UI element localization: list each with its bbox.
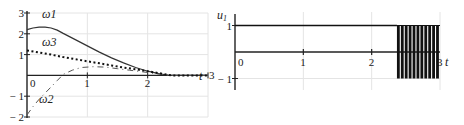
y-tick-label: 3 xyxy=(19,7,25,19)
y-axis-label: u1 xyxy=(217,8,227,23)
figure: 0123t321− 1− 2ω1ω3ω2 0123t1− 1u1 xyxy=(0,0,464,125)
series-u1-pulse xyxy=(417,26,420,79)
series-u1-pulse xyxy=(432,26,435,79)
series-u1-pulse xyxy=(413,26,416,79)
x-tick-label: 3 xyxy=(209,69,215,81)
x-tick-label: 1 xyxy=(84,77,90,89)
y-tick-label: 1 xyxy=(19,49,25,61)
x-tick-label: 1 xyxy=(300,56,306,68)
y-tick-label: 1 xyxy=(227,20,233,32)
series-u1-pulse xyxy=(401,26,404,79)
series-label-omega2: ω2 xyxy=(39,92,53,106)
y-tick-label: 2 xyxy=(19,28,25,40)
series-label-omega3: ω3 xyxy=(42,35,56,49)
series-u1-pulse xyxy=(420,26,423,79)
y-tick-label: − 1 xyxy=(10,90,24,102)
series-u1-pulse xyxy=(397,26,400,79)
series-omega2 xyxy=(27,67,208,115)
series-u1-pulse xyxy=(424,26,427,79)
x-tick-label: 0 xyxy=(30,77,36,89)
y-axis-label-subscript: 1 xyxy=(223,14,227,23)
series-u1-pulse xyxy=(409,26,412,79)
y-tick-label: − 2 xyxy=(10,111,24,123)
series-label-omega1: ω1 xyxy=(42,7,56,21)
chart-omega: 0123t321− 1− 2ω1ω3ω2 xyxy=(10,7,215,123)
x-tick-label: 2 xyxy=(369,56,375,68)
y-tick-label: − 1 xyxy=(218,73,232,85)
x-axis-label: t xyxy=(445,55,449,69)
series-u1-pulse xyxy=(428,26,431,79)
series-u1-pulse xyxy=(436,26,439,79)
series-u1-pulse xyxy=(405,26,408,79)
chart-u1: 0123t1− 1u1 xyxy=(217,8,449,90)
x-tick-label: 0 xyxy=(238,56,244,68)
x-tick-label: 2 xyxy=(145,77,151,89)
